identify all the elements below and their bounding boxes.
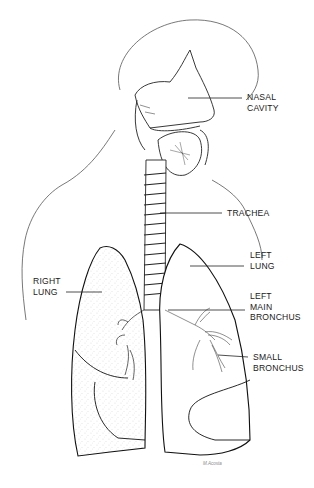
artist-signature: M.Acosta [203,461,222,466]
label-trachea: TRACHEA [227,208,269,219]
body-outline [22,20,262,320]
nasal-cavity-section [135,50,214,175]
respiratory-diagram [0,0,314,488]
label-left-lung: LEFTLUNG [250,250,275,271]
label-left-main-bronchus: LEFTMAINBRONCHUS [250,291,301,323]
right-lung [72,247,146,457]
label-nasal-cavity: NASALCAVITY [247,92,279,113]
left-lung [160,244,250,455]
label-right-lung: RIGHTLUNG [33,276,61,297]
label-small-bronchus: SMALLBRONCHUS [253,352,304,373]
